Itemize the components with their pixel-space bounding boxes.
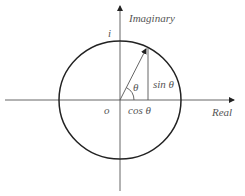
imaginary-axis-label: Imaginary	[128, 12, 175, 24]
real-axis-label: Real	[211, 106, 232, 118]
unit-circle-diagram: Imaginary i θ sin θ o cos θ Real	[0, 0, 245, 196]
i-label: i	[108, 27, 111, 39]
cos-label: cos θ	[128, 104, 151, 116]
theta-label: θ	[133, 81, 139, 93]
origin-label: o	[104, 104, 110, 116]
sin-label: sin θ	[153, 78, 175, 90]
